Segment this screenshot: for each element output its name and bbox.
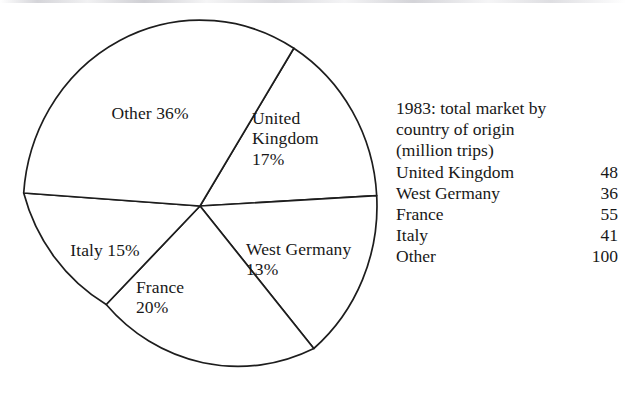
legend-row-value: 55 (578, 204, 618, 225)
legend-row-value: 48 (578, 162, 618, 183)
legend-title: 1983: total market by country of origin … (396, 98, 618, 161)
legend: 1983: total market by country of origin … (396, 98, 618, 267)
legend-row-name: West Germany (396, 183, 578, 204)
legend-row-name: France (396, 204, 578, 225)
legend-row: United Kingdom 48 (396, 162, 618, 183)
pie-chart-figure: Other 36% United Kingdom 17% West German… (0, 0, 400, 411)
pie-chart-svg (0, 0, 400, 411)
legend-row-name: Italy (396, 225, 578, 246)
legend-row: Italy 41 (396, 225, 618, 246)
pie-label-west-germany: West Germany 13% (246, 239, 358, 280)
legend-row-value: 41 (578, 225, 618, 246)
legend-table: United Kingdom 48 West Germany 36 France… (396, 162, 618, 267)
pie-label-france: France 20% (136, 277, 230, 318)
legend-row: France 55 (396, 204, 618, 225)
legend-row: Other 100 (396, 246, 618, 267)
pie-label-other: Other 36% (84, 103, 216, 123)
legend-row-value: 36 (578, 183, 618, 204)
legend-row-name: Other (396, 246, 578, 267)
legend-row: West Germany 36 (396, 183, 618, 204)
pie-label-italy: Italy 15% (42, 240, 168, 260)
pie-label-united-kingdom: United Kingdom 17% (252, 108, 358, 169)
legend-row-value: 100 (578, 246, 618, 267)
legend-row-name: United Kingdom (396, 162, 578, 183)
